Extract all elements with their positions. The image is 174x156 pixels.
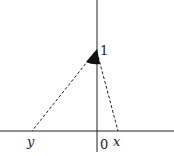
label-y: y bbox=[26, 134, 35, 149]
label-origin: 0 bbox=[100, 137, 108, 152]
label-x: x bbox=[113, 134, 121, 149]
angle-wedge bbox=[86, 49, 100, 64]
dashed-segment-to-y bbox=[32, 52, 95, 131]
label-one: 1 bbox=[100, 43, 108, 58]
diagram-canvas: 1 0 x y bbox=[0, 0, 174, 156]
dashed-segment-to-x bbox=[97, 52, 118, 131]
